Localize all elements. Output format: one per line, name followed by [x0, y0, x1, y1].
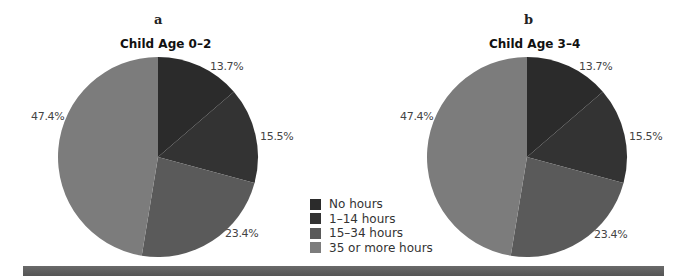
legend-item-35-plus-hours: 35 or more hours [310, 241, 433, 256]
pie-slice [427, 57, 527, 256]
panel-b-letter: b [524, 12, 533, 27]
panel-a-letter: a [154, 12, 162, 27]
pie-b-label-15-34: 23.4% [594, 228, 627, 241]
legend-label: 1–14 hours [329, 212, 395, 226]
legend-swatch [310, 213, 321, 224]
pie-a-label-15-34: 23.4% [225, 227, 258, 240]
pie-b-label-no-hours: 13.7% [579, 60, 612, 73]
legend-label: No hours [329, 197, 383, 211]
legend-label: 35 or more hours [329, 241, 433, 255]
legend: No hours 1–14 hours 15–34 hours 35 or mo… [310, 197, 433, 255]
bottom-divider-bar [23, 266, 664, 276]
pie-b-label-1-14: 15.5% [629, 130, 662, 143]
pie-a-label-1-14: 15.5% [260, 130, 293, 143]
pie-b-label-35-plus: 47.4% [400, 110, 433, 123]
legend-item-1-14-hours: 1–14 hours [310, 212, 433, 227]
legend-swatch [310, 242, 321, 253]
pie-slice [58, 57, 158, 256]
legend-swatch [310, 228, 321, 239]
panel-b-title: Child Age 3–4 [489, 37, 580, 51]
legend-item-no-hours: No hours [310, 197, 433, 212]
legend-swatch [310, 199, 321, 210]
panel-a-title: Child Age 0–2 [120, 37, 211, 51]
pie-a-label-no-hours: 13.7% [210, 60, 243, 73]
legend-label: 15–34 hours [329, 226, 403, 240]
pie-a-label-35-plus: 47.4% [31, 110, 64, 123]
legend-item-15-34-hours: 15–34 hours [310, 226, 433, 241]
